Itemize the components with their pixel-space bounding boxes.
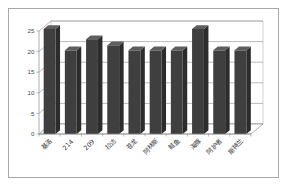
category-axis-label: 基洛 [39, 136, 55, 152]
category-axis-labels: 基洛214209拉达苍龙阿林斯鲑鱼海豚阿护者斯特兰 [39, 136, 245, 156]
bar [128, 47, 144, 134]
y-axis-tick-labels: 0510152025 [28, 27, 35, 137]
category-axis-label: 海豚 [188, 136, 204, 152]
category-axis-label: 鲑鱼 [166, 137, 181, 152]
bar [192, 25, 208, 134]
plot-area: 0510152025 基洛214209拉达苍龙阿林斯鲑鱼海豚阿护者斯特兰 [9, 9, 278, 177]
category-axis-label: 拉达 [103, 136, 119, 152]
y-axis-tick-label: 0 [31, 130, 35, 137]
bar [213, 47, 229, 134]
bar [44, 25, 60, 134]
y-axis-tick-label: 10 [28, 89, 35, 96]
y-axis-tick-label: 20 [28, 48, 35, 55]
bar-chart-svg: 0510152025 基洛214209拉达苍龙阿林斯鲑鱼海豚阿护者斯特兰 [9, 9, 278, 177]
bar [107, 42, 123, 134]
bar [86, 35, 102, 134]
category-axis-label: 阿林斯 [141, 136, 161, 156]
y-axis-tick-label: 5 [31, 110, 35, 117]
y-axis-tick-label: 15 [28, 68, 35, 75]
category-axis-label: 阿护者 [205, 136, 225, 156]
category-axis-label: 苍龙 [124, 136, 140, 152]
bar [150, 47, 166, 134]
category-axis-label: 斯特兰 [226, 136, 246, 156]
bar [171, 47, 187, 134]
category-axis-label: 214 [61, 138, 75, 152]
bar [234, 47, 250, 134]
category-axis-label: 209 [82, 138, 96, 152]
y-axis-tick-label: 25 [28, 27, 35, 34]
chart-frame: 0510152025 基洛214209拉达苍龙阿林斯鲑鱼海豚阿护者斯特兰 [8, 8, 279, 178]
bar [65, 47, 81, 134]
